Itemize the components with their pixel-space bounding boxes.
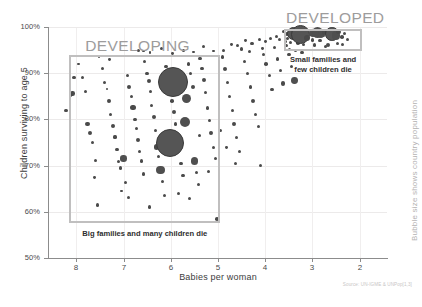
- data-bubble: [258, 38, 261, 41]
- developed-caption-line1: Small families and: [280, 55, 366, 65]
- data-bubble: [270, 88, 273, 91]
- y-tick: [44, 166, 48, 167]
- y-tick-label: 60%: [0, 207, 40, 216]
- data-bubble: [244, 39, 247, 42]
- x-tick-label: 7: [112, 263, 136, 272]
- data-bubble: [212, 50, 215, 53]
- data-bubble: [259, 164, 262, 167]
- x-tick-label: 2: [348, 263, 372, 272]
- data-bubble: [264, 40, 267, 43]
- y-tick: [44, 73, 48, 74]
- y-tick: [44, 212, 48, 213]
- data-bubble: [231, 109, 234, 112]
- x-tick: [360, 258, 361, 262]
- x-tick: [171, 258, 172, 262]
- data-bubble: [202, 45, 205, 48]
- y-tick-label: 80%: [0, 114, 40, 123]
- data-bubble: [261, 47, 264, 50]
- data-bubble: [243, 60, 246, 63]
- data-bubble: [228, 95, 231, 98]
- data-bubble: [236, 44, 239, 47]
- data-bubble: [269, 37, 272, 40]
- x-tick-label: 5: [206, 263, 230, 272]
- data-bubble: [251, 99, 255, 103]
- y-axis-line: [48, 27, 49, 258]
- x-tick-label: 4: [253, 263, 277, 272]
- x-tick-label: 3: [300, 263, 324, 272]
- developing-region-box: [69, 55, 220, 224]
- y-tick-label: 50%: [0, 253, 40, 262]
- data-bubble: [291, 77, 298, 84]
- data-bubble: [250, 42, 253, 45]
- data-bubble: [230, 43, 233, 46]
- data-bubble: [238, 150, 241, 153]
- x-tick-label: 8: [64, 263, 88, 272]
- data-bubble: [223, 67, 227, 71]
- data-bubble: [275, 35, 278, 38]
- developed-region-box: [284, 29, 362, 51]
- data-bubble: [262, 53, 265, 56]
- source-note: Source: UN-IGME & UNPop[1,3]: [300, 282, 412, 287]
- data-bubble: [222, 49, 225, 52]
- data-bubble: [221, 55, 224, 58]
- data-bubble: [273, 46, 276, 49]
- data-bubble: [246, 72, 249, 75]
- y-tick: [44, 258, 48, 259]
- data-bubble: [234, 162, 237, 165]
- data-bubble: [235, 136, 238, 139]
- data-bubble: [226, 81, 229, 84]
- x-tick: [218, 258, 219, 262]
- developed-region-caption: Small families and few children die: [280, 55, 366, 75]
- data-bubble: [257, 125, 260, 128]
- data-bubble: [300, 51, 303, 54]
- data-bubble: [64, 109, 67, 112]
- data-bubble: [276, 57, 280, 61]
- x-tick: [124, 258, 125, 262]
- developed-caption-line2: few children die: [280, 65, 366, 75]
- data-bubble: [264, 62, 268, 66]
- data-bubble: [249, 85, 252, 88]
- x-axis-title: Babies per woman: [148, 272, 288, 282]
- data-bubble: [268, 74, 271, 77]
- y-tick: [44, 27, 48, 28]
- y-tick: [44, 119, 48, 120]
- data-bubble: [240, 47, 244, 51]
- data-bubble: [248, 50, 251, 53]
- y-tick-label: 70%: [0, 161, 40, 170]
- data-bubble: [225, 146, 228, 149]
- developed-region-label: DEVELOPED: [286, 9, 384, 27]
- y-tick-label: 90%: [0, 68, 40, 77]
- developing-region-label: DEVELOPING: [85, 37, 190, 55]
- x-tick: [76, 258, 77, 262]
- x-tick: [312, 258, 313, 262]
- y-tick-label: 100%: [0, 22, 40, 31]
- x-tick: [265, 258, 266, 262]
- data-bubble: [232, 122, 236, 126]
- data-bubble: [254, 113, 257, 116]
- bubble-size-note: Bubble size shows country population: [410, 81, 419, 261]
- developing-region-caption: Big families and many children die: [69, 229, 220, 239]
- data-bubble: [192, 51, 195, 54]
- scatter-chart: DEVELOPING DEVELOPED Big families and ma…: [0, 0, 422, 307]
- data-bubble: [278, 38, 281, 41]
- data-bubble: [281, 81, 285, 85]
- x-tick-label: 6: [159, 263, 183, 272]
